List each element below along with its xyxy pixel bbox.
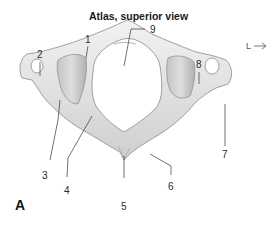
label-7: 7 [222,150,228,160]
label-1: 1 [85,35,91,45]
label-9: 9 [150,25,156,35]
right-articular-facet [167,56,195,98]
orientation-arrow-icon [254,43,266,49]
label-2: 2 [37,50,43,60]
label-4: 4 [64,186,70,196]
left-transverse-foramen [31,59,43,73]
label-5: 5 [121,202,127,212]
atlas-illustration [0,0,273,230]
orientation-label: L [246,41,251,51]
panel-label: A [15,197,25,213]
label-8: 8 [196,60,202,70]
label-6: 6 [168,182,174,192]
right-transverse-foramen [205,58,219,74]
label-3: 3 [42,171,48,181]
